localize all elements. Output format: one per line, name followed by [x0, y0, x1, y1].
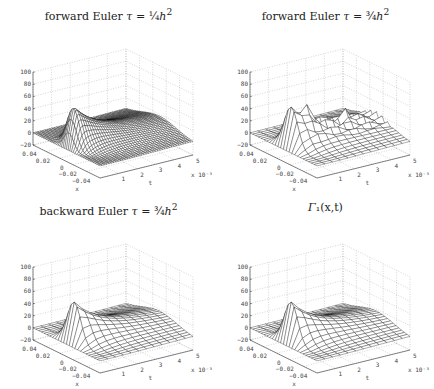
z-tick-label: 80 — [24, 275, 32, 282]
panel-backward-euler: backward Euler τ = ¾h2 100806040200−200.… — [0, 195, 217, 389]
t-tick-label: 5 — [413, 352, 417, 359]
t-tick-label: 4 — [394, 357, 398, 364]
panel-exact-solution: Γ₁(x,t) 100806040200−200.040.020−0.02−0.… — [217, 195, 434, 389]
z-tick-label: 80 — [241, 80, 249, 87]
surface-plot: 100806040200−200.040.020−0.02−0.0412345x… — [217, 0, 434, 195]
t-multiplier-label: x 10⁻³ — [408, 171, 430, 178]
t-tick-label: 3 — [159, 166, 163, 173]
t-multiplier-label: x 10⁻³ — [191, 366, 213, 373]
x-axis-label: x — [292, 380, 296, 387]
surface-plot: 100806040200−200.040.020−0.02−0.0412345x… — [0, 195, 217, 389]
z-tick-label: −20 — [20, 141, 31, 148]
z-tick-label: 20 — [24, 312, 32, 319]
z-tick-label: 100 — [20, 68, 31, 75]
t-multiplier-label: x 10⁻³ — [191, 171, 213, 178]
x-tick-label: −0.04 — [72, 177, 90, 184]
x-tick-label: 0.02 — [253, 352, 268, 359]
z-tick-label: −20 — [20, 336, 31, 343]
z-tick-label: 100 — [237, 263, 248, 270]
x-tick-label: −0.04 — [72, 372, 90, 379]
surface-plot: 100806040200−200.040.020−0.02−0.0412345x… — [0, 0, 217, 195]
t-multiplier-label: x 10⁻³ — [408, 366, 430, 373]
z-tick-label: 0 — [27, 129, 31, 136]
x-axis-label: x — [75, 185, 79, 192]
x-tick-label: −0.04 — [289, 177, 307, 184]
z-tick-label: 80 — [24, 80, 32, 87]
z-tick-label: 100 — [20, 263, 31, 270]
t-tick-label: 4 — [177, 162, 181, 169]
t-tick-label: 2 — [140, 366, 144, 373]
t-tick-label: 2 — [140, 171, 144, 178]
z-tick-label: 80 — [241, 275, 249, 282]
x-tick-label: 0.02 — [36, 352, 51, 359]
z-tick-label: 0 — [27, 324, 31, 331]
z-tick-label: 20 — [24, 117, 32, 124]
panel-forward-euler-three-quarter: forward Euler τ = ¾h2 100806040200−200.0… — [217, 0, 434, 195]
z-tick-label: 60 — [241, 287, 249, 294]
t-tick-label: 5 — [413, 157, 417, 164]
z-tick-label: 0 — [244, 324, 248, 331]
z-tick-label: 60 — [24, 287, 32, 294]
t-axis-label: t — [366, 374, 370, 381]
t-tick-label: 2 — [357, 171, 361, 178]
z-tick-label: 0 — [244, 129, 248, 136]
t-tick-label: 3 — [376, 361, 380, 368]
t-tick-label: 1 — [122, 175, 126, 182]
x-tick-label: −0.04 — [289, 372, 307, 379]
x-tick-label: 0.02 — [253, 157, 268, 164]
z-tick-label: 40 — [24, 105, 32, 112]
z-tick-label: 40 — [241, 300, 249, 307]
t-tick-label: 5 — [196, 352, 200, 359]
t-tick-label: 3 — [159, 361, 163, 368]
x-tick-label: 0.02 — [36, 157, 51, 164]
t-tick-label: 4 — [394, 162, 398, 169]
t-tick-label: 3 — [376, 166, 380, 173]
x-axis-label: x — [75, 380, 79, 387]
t-tick-label: 1 — [339, 175, 343, 182]
t-tick-label: 5 — [196, 157, 200, 164]
t-tick-label: 1 — [122, 370, 126, 377]
surface-plot: 100806040200−200.040.020−0.02−0.0412345x… — [217, 195, 434, 389]
z-tick-label: 100 — [237, 68, 248, 75]
t-tick-label: 2 — [357, 366, 361, 373]
x-axis-label: x — [292, 185, 296, 192]
z-tick-label: 40 — [24, 300, 32, 307]
t-axis-label: t — [149, 179, 153, 186]
t-axis-label: t — [366, 179, 370, 186]
z-tick-label: −20 — [237, 336, 248, 343]
t-axis-label: t — [149, 374, 153, 381]
panel-forward-euler-quarter: forward Euler τ = ¼h2 100806040200−200.0… — [0, 0, 217, 195]
t-tick-label: 1 — [339, 370, 343, 377]
z-tick-label: 20 — [241, 117, 249, 124]
z-tick-label: 40 — [241, 105, 249, 112]
z-tick-label: 60 — [241, 92, 249, 99]
t-tick-label: 4 — [177, 357, 181, 364]
z-tick-label: −20 — [237, 141, 248, 148]
z-tick-label: 20 — [241, 312, 249, 319]
z-tick-label: 60 — [24, 92, 32, 99]
